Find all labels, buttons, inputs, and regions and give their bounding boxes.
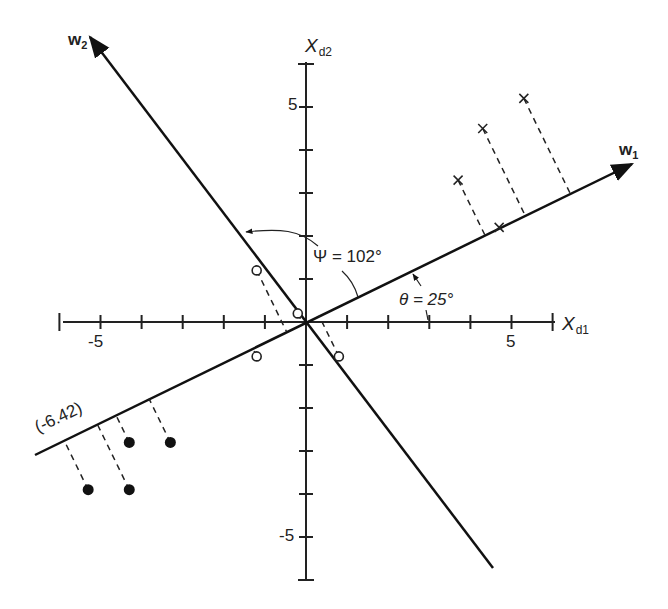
projection-line [483,129,525,216]
open-circle-marker [252,266,261,275]
projection-line [458,180,485,235]
open-circle-marker [334,352,343,361]
y-axis: 5 -5 Xd2 [279,35,332,580]
cross-marker [454,176,463,185]
filled-circle-marker [124,484,135,495]
projection-line [64,440,88,490]
projection-lines [64,98,570,489]
psi-annotation: Ψ = 102° [246,230,382,297]
cross-marker [519,94,528,103]
filled-circle-points [83,437,176,495]
y-tick-label-neg5: -5 [279,526,294,545]
projection-value-label: (-6.42) [32,398,85,436]
projection-line [524,98,570,193]
open-circle-marker [252,352,261,361]
x-tick-label-neg5: -5 [88,332,103,351]
projection-diagram: -5 5 Xd1 5 -5 Xd2 w1 w2 [0,0,668,609]
y-axis-label: Xd2 [304,35,332,59]
x-axis-label: Xd1 [561,313,589,337]
theta-label: θ = 25° [399,290,454,309]
projection-line [97,424,129,490]
filled-circle-marker [124,437,135,448]
open-circle-points [252,266,343,361]
theta-annotation: θ = 25° [399,274,454,320]
w2-label: w2 [67,30,87,51]
open-circle-marker [293,309,302,318]
projection-line [149,399,170,443]
diagram-canvas: -5 5 Xd1 5 -5 Xd2 w1 w2 [0,0,668,609]
cross-marker [478,124,487,133]
filled-circle-marker [165,437,176,448]
psi-label: Ψ = 102° [313,247,382,266]
w1-vector: w1 [35,140,638,455]
y-tick-label-5: 5 [288,95,297,114]
w1-label: w1 [618,140,638,161]
x-tick-label-5: 5 [506,332,515,351]
filled-circle-marker [83,484,94,495]
cross-points [454,94,529,232]
